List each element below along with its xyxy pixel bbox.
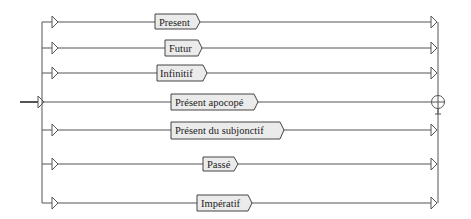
branch-present: Present [42, 14, 437, 29]
node-label: Présent apocopé [175, 97, 244, 108]
branch-infinitif: Infinitif [42, 65, 437, 81]
branch-passe: Passé [42, 157, 437, 171]
end-node-icon [432, 96, 445, 115]
node-futur[interactable]: Futur [165, 40, 202, 56]
node-present[interactable]: Present [155, 14, 200, 29]
merge-arrow-icon [431, 158, 437, 170]
node-label: Impératif [201, 198, 241, 209]
node-label: Passé [207, 159, 231, 170]
branch-imperatif: Impératif [42, 195, 437, 211]
branch-arrow-icon [52, 197, 58, 209]
railroad-diagram: Present Futur Infinitif Présent apocopé [0, 0, 471, 219]
merge-arrow-icon [431, 197, 437, 209]
branch-futur: Futur [42, 40, 437, 56]
merge-arrow-icon [431, 16, 437, 28]
branch-arrow-icon [52, 16, 58, 28]
branch-arrow-icon [52, 124, 58, 136]
node-label: Futur [169, 43, 192, 54]
merge-arrow-icon [431, 42, 437, 54]
merge-arrow-icon [431, 67, 437, 79]
branch-present-apocope: Présent apocopé [42, 94, 431, 110]
node-present-du-subjonctif[interactable]: Présent du subjonctif [171, 122, 284, 139]
branch-arrow-icon [52, 67, 58, 79]
node-infinitif[interactable]: Infinitif [157, 65, 207, 81]
branch-arrow-icon [52, 42, 58, 54]
node-label: Présent du subjonctif [175, 125, 264, 136]
node-imperatif[interactable]: Impératif [197, 195, 252, 211]
node-present-apocope[interactable]: Présent apocopé [171, 94, 258, 110]
merge-arrow-icon [431, 124, 437, 136]
node-label: Infinitif [160, 68, 193, 79]
branch-arrow-icon [52, 158, 58, 170]
node-passe[interactable]: Passé [203, 157, 238, 171]
branch-present-du-subjonctif: Présent du subjonctif [42, 122, 437, 139]
node-label: Present [159, 17, 190, 28]
